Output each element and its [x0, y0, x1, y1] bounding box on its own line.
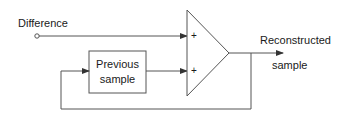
adder-sign-2: +	[191, 66, 197, 76]
input-terminal	[35, 34, 39, 38]
block-label-line2: sample	[100, 72, 135, 87]
block-label-line1: Previous	[96, 57, 139, 72]
output-label-line2: sample	[272, 59, 307, 72]
adder-sign-1: +	[191, 31, 197, 41]
previous-sample-label: Previous sample	[89, 51, 146, 93]
adder-triangle	[187, 10, 229, 96]
output-label-line1: Reconstructed	[260, 34, 331, 47]
input-label: Difference	[18, 17, 68, 30]
